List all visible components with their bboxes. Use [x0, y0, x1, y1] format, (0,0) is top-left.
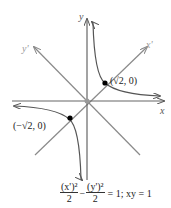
x-rot-axis-label: x': [146, 40, 153, 50]
point-label-negative: (−√2, 0): [13, 121, 46, 131]
point-label-positive: (√2, 0): [110, 76, 137, 86]
y-axis-label: y: [79, 12, 83, 22]
hyperbola-diagram: [0, 0, 171, 208]
equation-caption: (x')² 2 − (y')² 2 = 1; xy = 1: [60, 182, 152, 204]
vertex-point-negative: [67, 115, 72, 120]
y-rot-axis-label: y': [22, 44, 29, 54]
fraction-y: (y')² 2: [86, 182, 104, 204]
x-axis-label: x: [160, 106, 164, 116]
equation-rest: = 1; xy = 1: [105, 188, 152, 199]
origin: [85, 99, 90, 104]
vertex-point-positive: [102, 80, 107, 85]
fraction-x: (x')² 2: [60, 182, 78, 204]
